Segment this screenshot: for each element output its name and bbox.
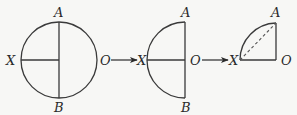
label-x: X <box>228 53 239 68</box>
folding-diagram: A B X O A B X O A X O <box>0 0 297 115</box>
label-x: X <box>136 53 147 68</box>
label-o: O <box>190 53 201 68</box>
label-o: O <box>100 53 111 68</box>
label-a: A <box>53 5 63 20</box>
label-a: A <box>270 5 280 20</box>
stage-quarter-circle: A X O <box>228 5 292 68</box>
stage-semicircle: A B X O <box>136 5 201 115</box>
label-b: B <box>180 100 191 115</box>
label-o: O <box>281 53 292 68</box>
stage-full-circle: A B X O <box>5 5 111 115</box>
label-b: B <box>53 100 64 115</box>
label-a: A <box>180 5 190 20</box>
label-x: X <box>5 53 16 68</box>
